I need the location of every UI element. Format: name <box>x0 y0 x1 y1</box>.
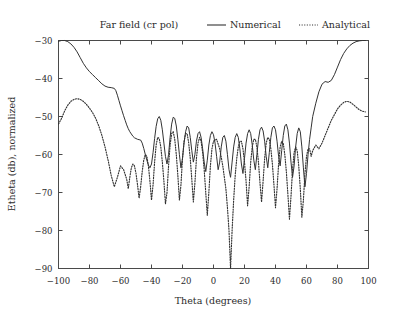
x-tick-label: 20 <box>239 276 250 286</box>
y-tick-label: −90 <box>35 264 53 274</box>
y-tick-label: −50 <box>35 112 53 122</box>
y-tick-label: −70 <box>35 188 53 198</box>
x-axis-label: Theta (degrees) <box>175 295 251 306</box>
x-tick-label: −80 <box>81 276 99 286</box>
y-tick-label: −30 <box>35 36 53 46</box>
x-tick-label: 100 <box>360 276 376 286</box>
x-tick-label: 60 <box>301 276 312 286</box>
chart-title: Far field (cr pol) <box>100 19 178 30</box>
x-tick-label: −40 <box>143 276 161 286</box>
x-tick-label: 40 <box>270 276 281 286</box>
legend-label-numerical: Numerical <box>230 19 281 30</box>
x-tick-label: −20 <box>174 276 192 286</box>
x-tick-label: 0 <box>211 276 216 286</box>
y-axis-label: Etheta (db), normalized <box>6 97 17 211</box>
y-tick-label: −40 <box>35 74 53 84</box>
y-tick-label: −80 <box>35 226 53 236</box>
y-tick-label: −60 <box>35 150 53 160</box>
chart-figure: Far field (cr pol) Numerical Analytical … <box>0 0 393 318</box>
x-tick-label: 80 <box>332 276 343 286</box>
far-field-cross-pol-chart: Far field (cr pol) Numerical Analytical … <box>0 0 393 318</box>
x-tick-label: −100 <box>47 276 70 286</box>
legend-label-analytical: Analytical <box>321 19 370 30</box>
x-tick-label: −60 <box>112 276 130 286</box>
